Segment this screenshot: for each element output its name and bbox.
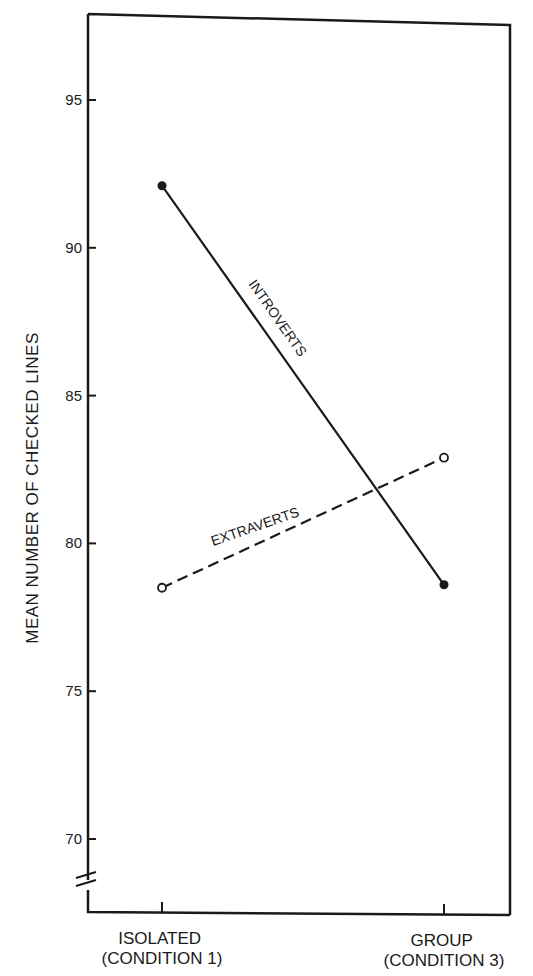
plot-frame (88, 14, 510, 915)
data-point-marker (158, 584, 166, 592)
series-line-extraverts (162, 458, 444, 588)
series-group (158, 181, 449, 592)
series-line-introverts (162, 186, 444, 585)
y-tick-label: 80 (65, 534, 82, 551)
line-chart: 707580859095 INTROVERTS EXTRAVERTS MEAN … (0, 0, 533, 976)
y-tick-label: 85 (65, 387, 82, 404)
y-tick-label: 70 (65, 830, 82, 847)
axis-break-icon (76, 872, 96, 886)
data-point-marker (158, 181, 167, 190)
y-axis-title: MEAN NUMBER OF CHECKED LINES (23, 332, 42, 644)
y-tick-label: 90 (65, 239, 82, 256)
data-point-marker (440, 454, 448, 462)
y-tick-label: 75 (65, 682, 82, 699)
series-label-extraverts: EXTRAVERTS (209, 504, 301, 549)
y-tick-label: 95 (65, 91, 82, 108)
x-label-isolated: ISOLATED (CONDITION 1) (102, 929, 223, 968)
y-axis-ticks: 707580859095 (65, 91, 96, 847)
x-label-group: GROUP (CONDITION 3) (384, 931, 505, 970)
data-point-marker (440, 580, 449, 589)
